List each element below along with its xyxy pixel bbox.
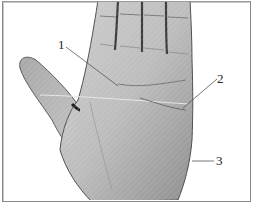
label-2: 2 xyxy=(217,72,224,85)
palm-illustration xyxy=(0,0,254,204)
label-1: 1 xyxy=(58,38,65,51)
label-3: 3 xyxy=(216,154,223,167)
